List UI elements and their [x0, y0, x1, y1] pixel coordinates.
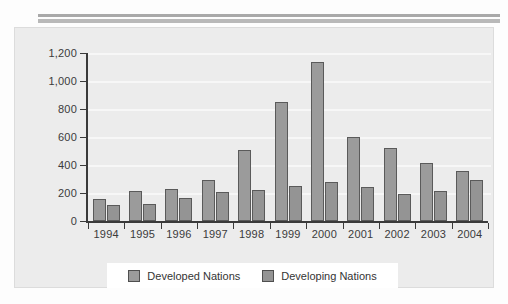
y-axis-tick-label: 0 — [71, 215, 77, 227]
x-axis-tick-label: 1996 — [166, 228, 191, 240]
bar — [93, 199, 106, 221]
bar — [165, 189, 178, 221]
x-axis-tick-label: 2004 — [457, 228, 482, 240]
y-axis-tick — [80, 109, 86, 110]
y-axis-tick — [80, 137, 86, 138]
bar — [252, 190, 265, 221]
bars-layer — [88, 53, 488, 221]
x-axis-tick-label: 1998 — [239, 228, 264, 240]
y-axis-tick — [80, 81, 86, 82]
bar — [420, 163, 433, 221]
bar — [384, 148, 397, 221]
y-axis-tick — [80, 165, 86, 166]
bar — [107, 205, 120, 221]
x-axis-tick-label: 1995 — [130, 228, 155, 240]
plot-area: 02004006008001,0001,200 — [86, 53, 491, 250]
legend-item-developing[interactable]: Developing Nations — [262, 270, 376, 282]
top-rule-secondary — [38, 19, 500, 23]
y-axis-tick-label: 800 — [58, 103, 77, 115]
y-axis-tick — [80, 193, 86, 194]
x-axis-tick-label: 1994 — [94, 228, 119, 240]
bar — [143, 204, 156, 221]
bar — [238, 150, 251, 221]
y-axis-tick — [80, 221, 86, 222]
bar — [434, 191, 447, 221]
chart-page: 02004006008001,0001,200 1994199519961997… — [0, 0, 508, 304]
y-axis-tick — [80, 53, 86, 54]
bar — [202, 180, 215, 221]
bar — [129, 191, 142, 221]
bar — [289, 186, 302, 221]
x-axis-tick-label: 2002 — [384, 228, 409, 240]
x-axis-line — [86, 221, 488, 223]
y-axis-tick-label: 200 — [58, 187, 77, 199]
x-axis-tick-label: 1999 — [275, 228, 300, 240]
bar — [325, 182, 338, 221]
bar — [179, 198, 192, 221]
bar — [361, 187, 374, 221]
bar — [470, 180, 483, 221]
y-axis-tick-label: 400 — [58, 159, 77, 171]
legend-label: Developed Nations — [147, 270, 240, 282]
top-rule-primary — [38, 14, 500, 17]
legend-swatch-icon — [262, 270, 274, 282]
bar — [275, 102, 288, 221]
x-axis-tick-label: 2000 — [312, 228, 337, 240]
bar — [398, 194, 411, 221]
bar — [456, 171, 469, 221]
legend-label: Developing Nations — [281, 270, 376, 282]
y-axis-tick-label: 1,000 — [48, 75, 77, 87]
legend-swatch-icon — [128, 270, 140, 282]
x-axis-tick-label: 2001 — [348, 228, 373, 240]
x-axis-tick-label: 2003 — [421, 228, 446, 240]
bar — [347, 137, 360, 221]
chart-legend: Developed Nations Developing Nations — [107, 263, 398, 288]
x-axis-labels: 1994199519961997199819992000200120022003… — [86, 228, 491, 246]
legend-item-developed[interactable]: Developed Nations — [128, 270, 240, 282]
x-axis-tick-label: 1997 — [203, 228, 228, 240]
chart-panel: 02004006008001,0001,200 1994199519961997… — [14, 27, 494, 288]
y-axis-tick-label: 600 — [58, 131, 77, 143]
bar — [216, 192, 229, 221]
y-axis-tick-label: 1,200 — [48, 47, 77, 59]
bar — [311, 62, 324, 221]
